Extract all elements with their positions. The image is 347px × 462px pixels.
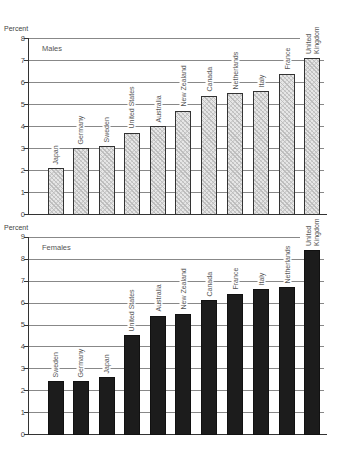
bar-germany <box>73 381 89 435</box>
y-tick-label: 6 <box>13 298 25 307</box>
chart-title: Females <box>42 243 71 252</box>
y-tick-label: 9 <box>13 232 25 241</box>
bar-united-kingdom <box>304 250 320 435</box>
y-tick-label: 5 <box>13 320 25 329</box>
gridline <box>28 237 300 238</box>
bar-sweden <box>48 381 64 435</box>
y-tick-label: 3 <box>13 364 25 373</box>
bar-france <box>227 294 243 435</box>
bar-label: Germany <box>77 348 85 379</box>
y-axis <box>28 237 29 435</box>
bar-label: United Kingdom <box>305 217 320 247</box>
y-tick-label: 2 <box>13 386 25 395</box>
gridline <box>28 281 324 282</box>
y-tick-label: 1 <box>13 408 25 417</box>
bar-netherlands <box>279 287 295 435</box>
bar-label: Australia <box>154 284 162 313</box>
females-chart: PercentFemales0123456789SwedenGermanyJap… <box>0 0 347 462</box>
bar-label: Japan <box>103 353 111 374</box>
y-tick-label: 7 <box>13 276 25 285</box>
bar-label: Canada <box>205 271 213 298</box>
bar-united-states <box>124 335 140 435</box>
bar-label: Italy <box>257 272 265 287</box>
bar-australia <box>150 316 166 435</box>
y-tick-label: 4 <box>13 342 25 351</box>
bar-label: Sweden <box>52 351 60 378</box>
bar-label: United States <box>128 288 136 332</box>
y-axis-label: Percent <box>4 224 28 231</box>
y-tick-label: 8 <box>13 254 25 263</box>
bar-label: Netherlands <box>283 245 291 285</box>
bar-new-zealand <box>175 314 191 435</box>
bar-italy <box>253 289 269 435</box>
gridline <box>28 259 324 260</box>
bar-label: New Zealand <box>179 267 187 310</box>
y-tick-label: 0 <box>13 430 25 439</box>
bar-japan <box>99 377 115 435</box>
bar-label: France <box>231 267 239 291</box>
bar-canada <box>201 300 217 435</box>
